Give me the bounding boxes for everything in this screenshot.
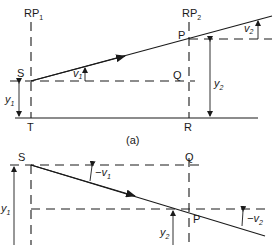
angle-minus-v1-label: −v1: [95, 166, 111, 180]
point-r-label: R: [184, 121, 192, 133]
point-s-label-b: S: [18, 151, 25, 163]
height-y2-label-b: y2: [159, 226, 170, 240]
point-q-label: Q: [173, 69, 182, 81]
caption-a: (a): [126, 134, 139, 146]
angle-minus-v1-arrow-icon: [90, 166, 92, 181]
point-q-label-b: Q: [185, 151, 194, 163]
angle-minus-v2-label: −v2: [247, 212, 263, 226]
angle-v2-label: v2: [244, 22, 254, 35]
point-p-label: P: [178, 29, 185, 41]
part-b: S Q P −v1 −v2 y1 y2: [0, 151, 268, 245]
point-s-label: S: [17, 67, 24, 79]
ray-direction-arrow-icon-b: [31, 165, 135, 196]
angle-v1-label: v1: [73, 67, 83, 80]
point-p-label-b: P: [193, 213, 200, 225]
angle-minus-v2-arrow-icon: [242, 211, 243, 226]
rp1-label: RP1: [24, 7, 43, 21]
ray-diagram: RP1 RP2 S Q P T R v1 v2 y1 y2 (a) S Q: [0, 0, 274, 245]
rp2-label: RP2: [182, 7, 201, 21]
height-y1-label-b: y1: [0, 202, 11, 216]
height-y2-label: y2: [213, 77, 224, 91]
point-t-label: T: [27, 121, 34, 133]
part-a: RP1 RP2 S Q P T R v1 v2 y1 y2 (a): [4, 7, 272, 146]
height-y1-label: y1: [4, 93, 15, 107]
